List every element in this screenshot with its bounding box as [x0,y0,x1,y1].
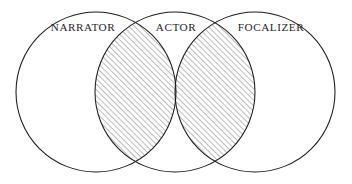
venn-diagram-canvas: NARRATOR ACTOR FOCALIZER [0,0,352,184]
set-label-focalizer: FOCALIZER [238,21,304,33]
set-label-narrator: NARRATOR [51,21,116,33]
set-label-actor: ACTOR [156,21,196,33]
venn-diagram-figure: NARRATOR ACTOR FOCALIZER [0,0,352,184]
